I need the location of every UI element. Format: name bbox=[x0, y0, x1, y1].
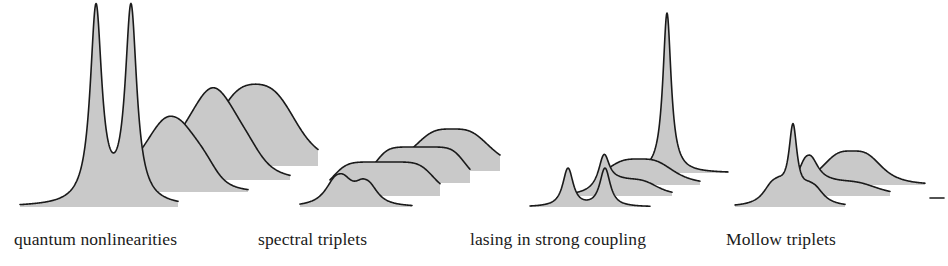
spectra-plot-layer bbox=[0, 0, 948, 266]
caption-row: quantum nonlinearities spectral triplets… bbox=[0, 228, 948, 260]
spectra-group-mollow-triplets bbox=[735, 124, 944, 207]
spectra-figure: quantum nonlinearities spectral triplets… bbox=[0, 0, 948, 266]
spectrum-fill bbox=[625, 13, 728, 173]
spectra-group-quantum-nonlinearities bbox=[20, 3, 318, 207]
caption-quantum-nonlinearities: quantum nonlinearities bbox=[14, 228, 177, 250]
spectra-group-spectral-triplets bbox=[300, 129, 500, 207]
caption-spectral-triplets: spectral triplets bbox=[258, 228, 367, 250]
caption-lasing-in-strong-coupling: lasing in strong coupling bbox=[470, 228, 646, 250]
spectra-group-lasing-in-strong-coupling bbox=[530, 13, 728, 207]
caption-mollow-triplets: Mollow triplets bbox=[726, 228, 836, 250]
